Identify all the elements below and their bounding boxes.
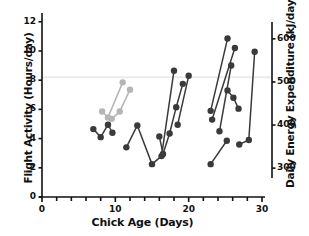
data-point-marker	[232, 45, 238, 51]
data-point-marker	[207, 161, 213, 167]
series-line	[211, 141, 227, 164]
x-axis-tick-label: 0	[30, 204, 54, 214]
series-layer	[90, 35, 258, 167]
data-point-marker	[156, 133, 162, 139]
y-axis-left-tick-label: 2	[14, 162, 36, 172]
data-point-marker	[251, 49, 257, 55]
data-point-marker	[99, 108, 105, 114]
y-axis-right-tick-label: 400	[277, 119, 305, 129]
y-axis-right-tick-label: 600	[277, 33, 305, 43]
y-axis-left-tick-label: 0	[14, 191, 36, 201]
data-point-marker	[123, 144, 129, 150]
y-axis-left-tick-label: 12	[14, 16, 36, 26]
data-series	[236, 49, 258, 148]
y-axis-right-tick-label: 500	[277, 76, 305, 86]
data-point-marker	[166, 130, 172, 136]
data-point-marker	[216, 128, 222, 134]
data-point-marker	[105, 122, 111, 128]
y-axis-left-tick-label: 4	[14, 133, 36, 143]
data-series	[90, 122, 115, 141]
data-series	[224, 87, 241, 112]
x-axis-tick-label: 10	[103, 204, 127, 214]
x-axis-tick-label: 20	[177, 204, 201, 214]
data-point-marker	[171, 67, 177, 73]
data-point-marker	[149, 161, 155, 167]
data-point-marker	[224, 87, 230, 93]
data-point-marker	[228, 62, 234, 68]
data-point-marker	[207, 108, 213, 114]
data-point-marker	[224, 138, 230, 144]
x-axis-title: Chick Age (Days)	[0, 216, 285, 229]
data-point-marker	[246, 137, 252, 143]
data-point-marker	[127, 86, 133, 92]
chart-container: Flight Activity (Hours/day) Daily Energy…	[0, 0, 309, 236]
series-line	[239, 52, 254, 145]
data-point-marker	[160, 151, 166, 157]
data-point-marker	[173, 104, 179, 110]
x-axis-tick-label: 30	[250, 204, 274, 214]
data-series	[207, 35, 230, 114]
data-point-marker	[174, 122, 180, 128]
data-point-marker	[230, 95, 236, 101]
y-axis-left-tick-label: 6	[14, 103, 36, 113]
data-point-marker	[236, 141, 242, 147]
data-point-marker	[134, 122, 140, 128]
data-point-marker	[109, 130, 115, 136]
data-series	[108, 86, 133, 122]
y-axis-right-tick-label: 300	[277, 162, 305, 172]
data-point-marker	[180, 81, 186, 87]
y-axis-left-tick-label: 8	[14, 74, 36, 84]
data-point-marker	[185, 73, 191, 79]
data-point-marker	[209, 116, 215, 122]
data-point-marker	[90, 126, 96, 132]
data-series	[99, 79, 126, 120]
y-axis-left-tick-label: 10	[14, 45, 36, 55]
data-series	[207, 138, 230, 168]
data-point-marker	[235, 105, 241, 111]
data-point-marker	[108, 116, 114, 122]
series-line	[126, 71, 174, 164]
plot-area	[0, 0, 309, 236]
data-point-marker	[119, 79, 125, 85]
data-series	[123, 67, 177, 167]
series-line	[219, 66, 231, 132]
data-point-marker	[224, 35, 230, 41]
data-point-marker	[117, 108, 123, 114]
data-point-marker	[97, 134, 103, 140]
